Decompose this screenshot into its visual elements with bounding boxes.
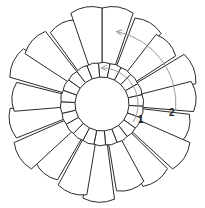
label-1: 1 [138, 115, 144, 125]
outer-ring-cells [9, 7, 196, 203]
cell-ring-diagram [0, 0, 205, 208]
label-2: 2 [169, 108, 175, 118]
inner-ring-cells [60, 62, 143, 145]
